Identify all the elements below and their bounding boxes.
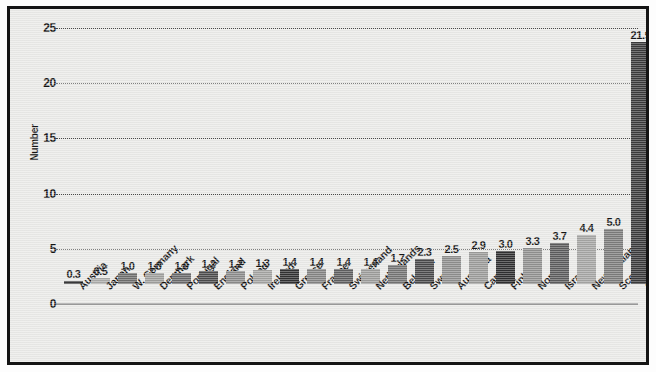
bar-value-label: 1.4 bbox=[303, 256, 330, 268]
bar-group[interactable]: 3.7Israel bbox=[546, 6, 573, 362]
plot-area: 0.3Austria0.5Japan1.0W. Germany1.0Denmar… bbox=[56, 9, 638, 362]
bar-group[interactable]: 21.9United States bbox=[627, 6, 649, 362]
y-axis-tick-label: 20 bbox=[24, 76, 56, 90]
bar-group[interactable]: 1.2England bbox=[195, 6, 222, 362]
bar-value-label: 1.4 bbox=[357, 256, 384, 268]
bar-value-label: 21.9 bbox=[627, 29, 649, 41]
bar-value-label: 1.7 bbox=[384, 252, 411, 264]
bar-group[interactable]: 0.3Austria bbox=[60, 6, 87, 362]
bar-group[interactable]: 2.9Canada bbox=[465, 6, 492, 362]
y-axis-tick-label: 25 bbox=[24, 21, 56, 35]
bar-group[interactable]: 1.4France bbox=[303, 6, 330, 362]
bar-value-label: 1.0 bbox=[114, 260, 141, 272]
y-axis-tick-label: 0 bbox=[24, 297, 56, 311]
bar-group[interactable]: 3.3Norway bbox=[519, 6, 546, 362]
bar-value-label: 3.0 bbox=[492, 238, 519, 250]
bar-value-label: 1.4 bbox=[330, 256, 357, 268]
bar-value-label: 4.4 bbox=[573, 222, 600, 234]
bar-group[interactable]: 3.0Finland bbox=[492, 6, 519, 362]
bar-group[interactable]: 2.3Sweden bbox=[411, 6, 438, 362]
bar-value-label: 3.7 bbox=[546, 230, 573, 242]
bar-group[interactable]: 2.5Australia bbox=[438, 6, 465, 362]
bar-value-label: 5.0 bbox=[600, 216, 627, 228]
bar-group[interactable]: 4.4New Zealand bbox=[573, 6, 600, 362]
chart-frame: Number 0510152025 0.3Austria0.5Japan1.0W… bbox=[7, 6, 649, 365]
bar-value-label: 2.3 bbox=[411, 246, 438, 258]
bar-value-label: 2.9 bbox=[465, 239, 492, 251]
bar-group[interactable]: 1.0Portugal bbox=[168, 6, 195, 362]
bar-group[interactable]: 1.4Switzerland bbox=[330, 6, 357, 362]
bar-group[interactable]: 5.0Scotland bbox=[600, 6, 627, 362]
bar-value-label: 1.3 bbox=[249, 257, 276, 269]
bar-group[interactable]: 1.0W. Germany bbox=[114, 6, 141, 362]
bar-group[interactable]: 1.2Poland bbox=[222, 6, 249, 362]
bar-group[interactable]: 0.5Japan bbox=[87, 6, 114, 362]
bar-value-label: 1.2 bbox=[195, 258, 222, 270]
bar-value-label: 1.2 bbox=[222, 258, 249, 270]
y-axis-tick-label: 5 bbox=[24, 242, 56, 256]
bar-group[interactable]: 1.4Netherlands bbox=[357, 6, 384, 362]
chart-figure: Number 0510152025 0.3Austria0.5Japan1.0W… bbox=[0, 0, 656, 372]
bar-group[interactable]: 1.3Ireland bbox=[249, 6, 276, 362]
bar[interactable] bbox=[577, 235, 596, 284]
bar-value-label: 1.0 bbox=[141, 260, 168, 272]
bar-group[interactable]: 1.4Greece bbox=[276, 6, 303, 362]
bar-group[interactable]: 1.0Denmark bbox=[141, 6, 168, 362]
bar-value-label: 1.4 bbox=[276, 256, 303, 268]
bar[interactable] bbox=[604, 229, 623, 284]
bar[interactable] bbox=[631, 42, 649, 284]
bar-value-label: 1.0 bbox=[168, 260, 195, 272]
y-axis-tick-label: 15 bbox=[24, 131, 56, 145]
bar-value-label: 2.5 bbox=[438, 243, 465, 255]
bar-group[interactable]: 1.7Belgium bbox=[384, 6, 411, 362]
bar-value-label: 3.3 bbox=[519, 235, 546, 247]
y-axis-tick-label: 10 bbox=[24, 187, 56, 201]
